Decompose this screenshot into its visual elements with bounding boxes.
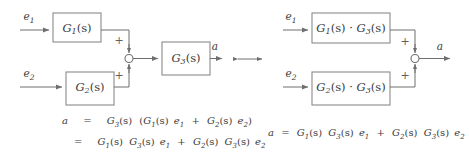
signal-label-e1: e1 [24, 10, 35, 25]
signal-label-e1-right: e1 [286, 10, 297, 25]
equation-left-line1: a = G3(s) (G1(s) e1 + G2(s) e2) [62, 115, 252, 129]
sum-sign-bottom-right: + [400, 69, 409, 82]
sum-sign-top-left: + [114, 34, 123, 47]
signal-label-e2: e2 [24, 67, 35, 82]
left-equations-group: a = G3(s) (G1(s) e1 + G2(s) e2) = G1(s) … [62, 115, 266, 150]
summing-junction-left[interactable] [125, 55, 133, 63]
output-label-a-left: a [212, 40, 218, 52]
block-diagram-figure: e1 G1(s) + e2 G2(s) + [0, 0, 469, 161]
block-g1-label: G1(s) [62, 21, 91, 36]
sum-sign-bottom-left: + [114, 69, 123, 82]
summing-junction-right[interactable] [411, 55, 419, 63]
right-equation-group: a = G1(s) G3(s) e1 + G2(s) G3(s) e2 [268, 127, 465, 141]
left-diagram-group: e1 G1(s) + e2 G2(s) + [20, 10, 222, 105]
diagram-canvas: e1 G1(s) + e2 G2(s) + [0, 0, 469, 161]
equation-left-line2: = G1(s) G3(s) e1 + G2(s) G3(s) e2 [74, 136, 266, 150]
sum-sign-top-right: + [400, 35, 409, 48]
output-label-a-right: a [437, 40, 443, 52]
block-g1g3-label: G1(s) · G3(s) [316, 21, 385, 36]
right-diagram-group: e1 G1(s) · G3(s) + e2 G2(s) · G3(s) [283, 10, 450, 105]
block-g2-label: G2(s) [75, 80, 104, 95]
equation-right-line1: a = G1(s) G3(s) e1 + G2(s) G3(s) e2 [268, 127, 465, 141]
signal-label-e2-right: e2 [286, 67, 297, 82]
block-g3-label: G3(s) [171, 51, 200, 66]
block-g2g3-label: G2(s) · G3(s) [316, 80, 385, 95]
